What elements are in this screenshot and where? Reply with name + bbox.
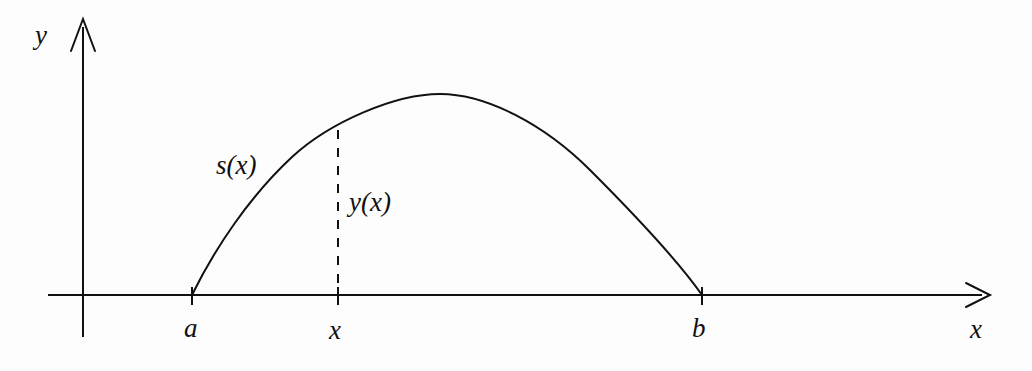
tick-label-a: a: [184, 315, 198, 342]
curve-label-s-of-x: s(x): [216, 152, 256, 179]
math-figure: y x a x b s(x) y(x): [0, 0, 1032, 371]
tick-label-x: x: [329, 317, 341, 344]
tick-label-b: b: [692, 315, 706, 342]
x-axis-label: x: [970, 316, 982, 343]
diagram-canvas: [0, 0, 1032, 371]
y-axis-label: y: [35, 22, 47, 49]
curve-s-of-x: [192, 94, 702, 295]
curve-label-y-of-x: y(x): [349, 189, 391, 216]
